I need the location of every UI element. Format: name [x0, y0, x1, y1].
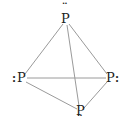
- lone-pair-bottom: ¨: [77, 114, 83, 125]
- bond-left-bottom: [26, 82, 77, 109]
- atom-p-left: P: [17, 71, 26, 84]
- atom-p-top: P: [61, 12, 70, 25]
- lone-pair-left: :: [12, 73, 16, 84]
- bond-right-bottom: [84, 82, 107, 108]
- atom-p-right: P: [106, 71, 115, 84]
- bond-top-bottom: [67, 25, 79, 106]
- lone-pair-right: :: [115, 73, 119, 84]
- bond-top-left: [25, 24, 63, 74]
- p4-lewis-structure-diagram: ¨ P : P P : P ¨: [0, 0, 125, 134]
- bond-top-right: [69, 24, 107, 74]
